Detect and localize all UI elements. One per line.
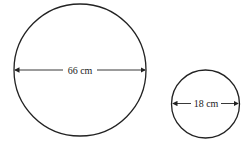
small-diameter-label: 18 cm <box>194 98 219 109</box>
large-circle: 66 cm <box>14 4 146 136</box>
small-circle: 18 cm <box>172 70 240 138</box>
large-diameter-label: 66 cm <box>68 65 93 76</box>
circles-diagram: 66 cm 18 cm <box>0 0 251 144</box>
